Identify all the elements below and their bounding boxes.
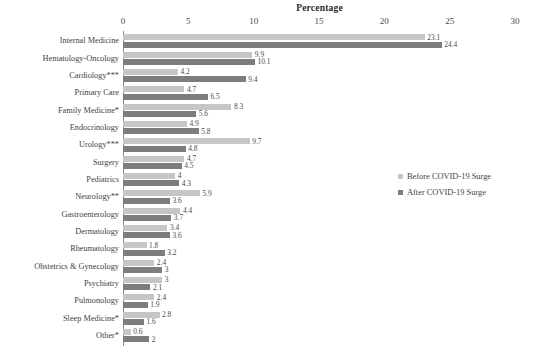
bar [123, 34, 425, 40]
category-label: Dermatology [1, 228, 119, 236]
bar-value-label: 4.7 [187, 86, 196, 93]
bar-value-label: 5.8 [201, 128, 210, 135]
bar [123, 128, 199, 134]
category-label: Surgery [1, 159, 119, 167]
chart-axis-title-text: Percentage [296, 3, 343, 13]
category-label: Other* [1, 332, 119, 340]
legend-swatch-icon [398, 174, 403, 179]
category-label: Primary Care [1, 89, 119, 97]
bar [123, 267, 162, 273]
x-axis-tick-label: 20 [380, 16, 389, 26]
legend-swatch-icon [398, 190, 403, 195]
category-label: Urology*** [1, 141, 119, 149]
bar-value-label: 10.1 [257, 58, 270, 65]
bar-value-label: 24.4 [444, 41, 457, 48]
bar-value-label: 4.2 [180, 68, 189, 75]
category-label: Gastroenterology [1, 211, 119, 219]
bar [123, 215, 171, 221]
chart-axis-title: Percentage [0, 3, 549, 13]
bar [123, 302, 148, 308]
category-label: Rheumatology [1, 245, 119, 253]
bar-value-label: 3.2 [167, 249, 176, 256]
bar [123, 163, 182, 169]
category-label: Psychiatry [1, 280, 119, 288]
bar [123, 42, 442, 48]
bar [123, 232, 170, 238]
bar-value-label: 1.9 [150, 301, 159, 308]
bar [123, 208, 180, 214]
bar [123, 76, 246, 82]
bar [123, 69, 178, 75]
bar-value-label: 1.6 [146, 318, 155, 325]
bar [123, 180, 179, 186]
bar-value-label: 4.3 [182, 180, 191, 187]
category-label: Obstetrics & Gynecology [1, 263, 119, 271]
x-axis-tick-label: 30 [511, 16, 520, 26]
bar-value-label: 3.7 [174, 214, 183, 221]
x-axis-tick-label: 5 [186, 16, 191, 26]
legend-item-label: Before COVID-19 Surge [407, 172, 491, 181]
x-axis-tick-label: 0 [121, 16, 126, 26]
bar-value-label: 3.6 [173, 232, 182, 239]
bar-value-label: 1.8 [149, 242, 158, 249]
bar [123, 121, 187, 127]
bar [123, 104, 231, 110]
chart-legend: Before COVID-19 SurgeAfter COVID-19 Surg… [398, 172, 491, 204]
bar [123, 198, 170, 204]
x-axis-tick-label: 10 [249, 16, 258, 26]
bar-value-label: 2.8 [162, 311, 171, 318]
category-label: Cardiology*** [1, 72, 119, 80]
bar [123, 94, 208, 100]
x-axis-tick-label: 15 [315, 16, 324, 26]
legend-item[interactable]: After COVID-19 Surge [398, 188, 491, 197]
category-label-column: Internal MedicineHematology-OncologyCard… [0, 33, 119, 345]
legend-item[interactable]: Before COVID-19 Surge [398, 172, 491, 181]
bar-value-label: 5.9 [203, 190, 212, 197]
bar-value-label: 5.6 [199, 110, 208, 117]
bar-value-label: 23.1 [427, 34, 440, 41]
bar [123, 52, 252, 58]
bar-value-label: 4.8 [188, 145, 197, 152]
x-axis-tick-label: 25 [445, 16, 454, 26]
bar [123, 329, 131, 335]
bar-value-label: 3.6 [173, 197, 182, 204]
category-label: Sleep Medicine* [1, 315, 119, 323]
bar-value-label: 2 [152, 336, 156, 343]
bar-value-label: 0.6 [133, 328, 142, 335]
bar [123, 59, 255, 65]
bar [123, 250, 165, 256]
bar [123, 190, 200, 196]
bar-value-label: 3 [165, 266, 169, 273]
bar-value-label: 4.9 [190, 120, 199, 127]
bar-value-label: 2.1 [153, 284, 162, 291]
bar [123, 242, 147, 248]
bar [123, 284, 150, 290]
bar [123, 138, 250, 144]
bar-value-label: 3 [165, 276, 169, 283]
legend-item-label: After COVID-19 Surge [407, 188, 486, 197]
bar [123, 146, 186, 152]
bar [123, 225, 167, 231]
bar [123, 111, 196, 117]
category-label: Pulmonology [1, 297, 119, 305]
category-label: Endocrinology [1, 124, 119, 132]
bar [123, 86, 184, 92]
category-label: Family Medicine* [1, 107, 119, 115]
bar [123, 336, 149, 342]
bar [123, 156, 184, 162]
bar-value-label: 4.4 [183, 207, 192, 214]
bar-value-label: 9.4 [248, 76, 257, 83]
bar-value-label: 4.5 [184, 162, 193, 169]
category-label: Pediatrics [1, 176, 119, 184]
bar [123, 173, 175, 179]
bar [123, 319, 144, 325]
bar-chart: Percentage 051015202530 Internal Medicin… [0, 0, 549, 362]
bar-value-label: 8.3 [234, 103, 243, 110]
category-label: Neurology** [1, 193, 119, 201]
bar-value-label: 6.5 [210, 93, 219, 100]
bar-value-label: 9.7 [252, 138, 261, 145]
category-label: Hematology-Oncology [1, 55, 119, 63]
bar [123, 260, 154, 266]
category-label: Internal Medicine [1, 37, 119, 45]
